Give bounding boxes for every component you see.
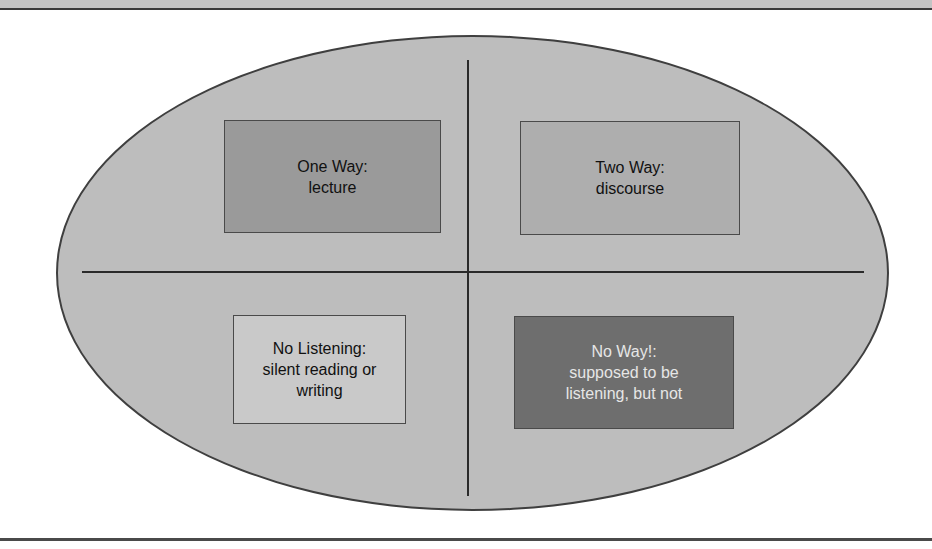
quadrant-description-line: listening, but not xyxy=(566,383,683,404)
quadrant-description-line: writing xyxy=(263,380,377,401)
quadrant-title: Two Way: xyxy=(595,157,665,178)
diagram-ellipse xyxy=(56,35,889,511)
bottom-rule xyxy=(0,538,932,541)
header-band-cropped xyxy=(0,0,932,10)
vertical-axis-line xyxy=(467,60,469,496)
horizontal-axis-line xyxy=(82,271,864,273)
quadrant-description-line: supposed to be xyxy=(566,362,683,383)
quadrant-no-listening: No Listening: silent reading or writing xyxy=(233,315,406,424)
quadrant-no-way: No Way!: supposed to be listening, but n… xyxy=(514,316,734,429)
quadrant-description: lecture xyxy=(297,177,368,198)
quadrant-two-way: Two Way: discourse xyxy=(520,121,740,235)
quadrant-title: One Way: xyxy=(297,156,368,177)
quadrant-one-way: One Way: lecture xyxy=(224,120,441,233)
quadrant-title: No Way!: xyxy=(566,341,683,362)
quadrant-title: No Listening: xyxy=(263,338,377,359)
quadrant-description-line: silent reading or xyxy=(263,359,377,380)
quadrant-description: discourse xyxy=(595,178,665,199)
